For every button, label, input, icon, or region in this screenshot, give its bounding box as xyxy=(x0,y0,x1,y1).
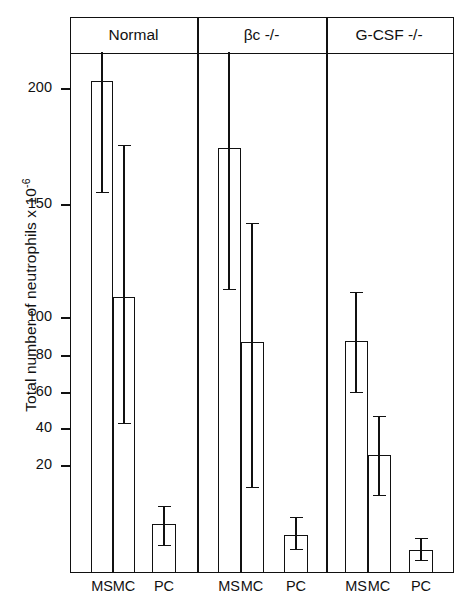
y-tick-mark-60 xyxy=(61,392,70,394)
error-bar-line-normal-pc xyxy=(163,506,164,545)
y-tick-mark-80 xyxy=(61,355,70,357)
error-bar-line-bc-ms xyxy=(228,52,229,289)
x-tick-label-2: PC xyxy=(144,578,184,594)
error-bar-line-normal-ms xyxy=(101,52,102,192)
error-bar-line-gcsf-ms xyxy=(355,292,356,392)
y-tick-label-200: 200 xyxy=(0,79,52,95)
error-cap-bottom-normal-pc xyxy=(158,545,171,546)
error-cap-top-gcsf-pc xyxy=(415,538,428,539)
error-cap-bottom-bc-mc xyxy=(246,487,259,488)
x-tick-label-8: PC xyxy=(401,578,441,594)
x-tick-label-1: MC xyxy=(104,578,144,594)
figure: Total number of neutrophils x 10-6 Norma… xyxy=(0,0,470,610)
y-tick-label-100: 100 xyxy=(0,308,52,324)
error-cap-top-gcsf-ms xyxy=(350,292,363,293)
y-tick-label-40: 40 xyxy=(0,419,52,435)
panel-divider-1 xyxy=(326,17,328,572)
y-tick-label-80: 80 xyxy=(0,346,52,362)
error-cap-top-normal-pc xyxy=(158,506,171,507)
y-tick-mark-20 xyxy=(61,465,70,467)
y-axis-title-text: Total number of neutrophils x 10 xyxy=(22,188,39,412)
y-tick-mark-40 xyxy=(61,428,70,430)
error-cap-bottom-normal-mc xyxy=(118,423,131,424)
error-cap-bottom-normal-ms xyxy=(96,192,109,193)
x-tick-label-4: MC xyxy=(232,578,272,594)
error-bar-line-bc-mc xyxy=(251,223,252,487)
error-cap-top-bc-pc xyxy=(290,517,303,518)
y-axis-title-exponent: -6 xyxy=(20,178,32,188)
y-tick-mark-200 xyxy=(61,88,70,90)
panel-header-1: βc -/- xyxy=(197,17,326,52)
y-tick-mark-150 xyxy=(61,204,70,206)
error-cap-top-gcsf-mc xyxy=(373,416,386,417)
error-bar-line-bc-pc xyxy=(295,517,296,549)
error-bar-line-normal-mc xyxy=(123,145,124,423)
x-tick-label-5: PC xyxy=(276,578,316,594)
error-cap-top-bc-mc xyxy=(246,223,259,224)
error-bar-line-gcsf-mc xyxy=(378,416,379,495)
error-cap-bottom-gcsf-ms xyxy=(350,392,363,393)
error-cap-bottom-gcsf-pc xyxy=(415,560,428,561)
y-tick-label-60: 60 xyxy=(0,383,52,399)
panel-header-0: Normal xyxy=(70,17,197,52)
error-cap-bottom-bc-pc xyxy=(290,549,303,550)
error-cap-top-normal-mc xyxy=(118,145,131,146)
error-cap-bottom-gcsf-mc xyxy=(373,495,386,496)
x-tick-label-7: MC xyxy=(359,578,399,594)
error-bar-line-gcsf-pc xyxy=(420,538,421,560)
y-tick-label-150: 150 xyxy=(0,195,52,211)
error-cap-bottom-bc-ms xyxy=(223,289,236,290)
panel-divider-0 xyxy=(197,17,199,572)
y-tick-mark-100 xyxy=(61,317,70,319)
y-tick-label-20: 20 xyxy=(0,456,52,472)
panel-header-2: G-CSF -/- xyxy=(326,17,452,52)
